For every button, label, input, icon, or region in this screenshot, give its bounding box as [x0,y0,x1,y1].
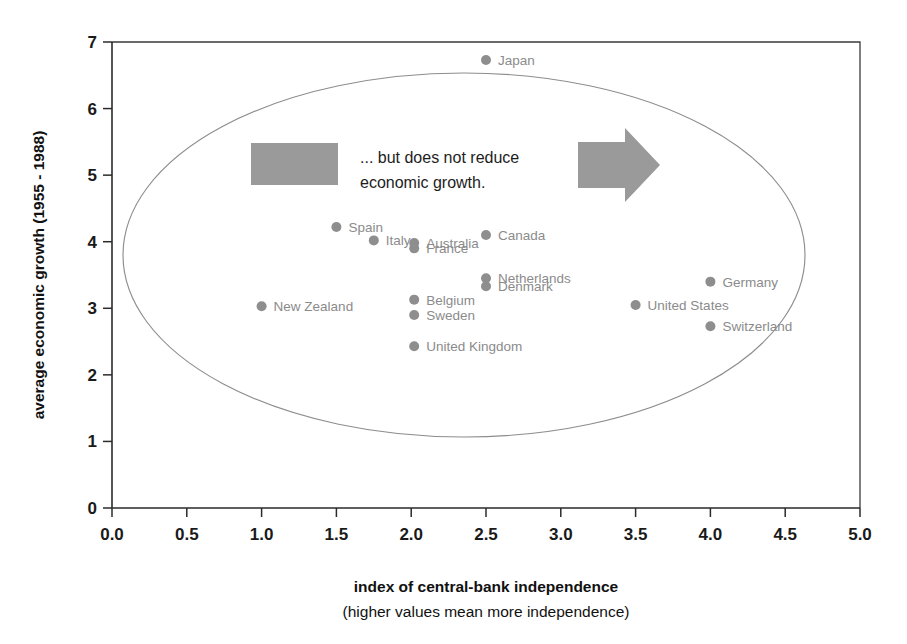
y-axis-ticks: 01234567 [88,33,112,518]
data-point: Canada [481,228,546,243]
chart-canvas: 01234567 0.00.51.01.52.02.53.03.54.04.55… [0,0,907,644]
x-tick-label: 2.5 [474,525,498,544]
x-tick-label: 2.0 [399,525,423,544]
x-tick-label: 0.0 [100,525,124,544]
x-tick-label: 5.0 [848,525,872,544]
y-axis-title: average economic growth (1955 - 1988) [30,131,47,420]
data-point-label: Switzerland [722,319,792,334]
data-point: Italy [369,233,411,248]
data-point-label: France [426,241,468,256]
callout-line-2: economic growth. [360,174,485,191]
data-point: United States [631,298,729,313]
data-point: Spain [331,220,383,235]
y-tick-label: 0 [88,499,97,518]
x-axis-title: index of central-bank independence [354,578,619,595]
data-point-dot [705,321,715,331]
y-tick-label: 1 [88,432,97,451]
y-tick-label: 6 [88,100,97,119]
data-point: Belgium [409,293,475,308]
y-tick-label: 4 [88,233,98,252]
data-point-dot [409,341,419,351]
x-tick-label: 4.5 [773,525,797,544]
x-tick-label: 1.0 [250,525,274,544]
scatter-chart: 01234567 0.00.51.01.52.02.53.03.54.04.55… [0,0,907,644]
callout-annotation: ... but does not reduce economic growth. [251,128,660,202]
data-point-label: Germany [722,275,778,290]
data-point-label: United Kingdom [426,339,522,354]
data-point-dot [481,281,491,291]
x-tick-label: 3.0 [549,525,573,544]
data-point-dot [369,235,379,245]
data-point: Switzerland [705,319,792,334]
data-point-label: United States [648,298,729,313]
x-tick-label: 1.5 [325,525,349,544]
data-point-label: Sweden [426,308,475,323]
data-point-dot [409,310,419,320]
data-point-label: New Zealand [274,299,354,314]
data-point-dot [481,230,491,240]
data-point-label: Canada [498,228,546,243]
x-tick-label: 3.5 [624,525,648,544]
callout-line-1: ... but does not reduce [360,149,519,166]
data-point-dot [481,55,491,65]
x-tick-label: 4.0 [699,525,723,544]
x-tick-label: 0.5 [175,525,199,544]
data-point-label: Belgium [426,293,475,308]
data-point-dot [409,295,419,305]
data-point-label: Spain [348,220,383,235]
x-axis-subtitle: (higher values mean more independence) [343,603,630,620]
data-point-dot [331,222,341,232]
data-point-label: Denmark [498,279,553,294]
data-point-group: JapanSpainCanadaItalyAustraliaFranceNeth… [257,53,793,354]
data-point-dot [409,243,419,253]
data-point-dot [631,300,641,310]
data-point: Denmark [481,279,553,294]
data-point: United Kingdom [409,339,522,354]
data-point-dot [705,277,715,287]
y-tick-label: 3 [88,299,97,318]
callout-swatch-rect [251,143,338,185]
x-axis-ticks: 0.00.51.01.52.02.53.03.54.04.55.0 [100,508,872,544]
data-point-label: Japan [498,53,535,68]
y-tick-label: 7 [88,33,97,52]
y-tick-label: 5 [88,166,97,185]
data-point: Japan [481,53,535,68]
callout-arrow-icon [578,128,660,202]
y-tick-label: 2 [88,366,97,385]
data-point: New Zealand [257,299,354,314]
data-point-label: Italy [386,233,411,248]
data-point-dot [257,301,267,311]
data-point: Sweden [409,308,475,323]
data-point: Germany [705,275,778,290]
